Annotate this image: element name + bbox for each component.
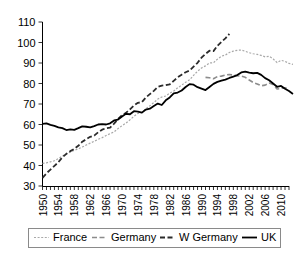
x-tick-label: 1954 [53,194,64,217]
x-tick-label: 2002 [244,194,255,217]
x-tick-label: 1958 [69,194,80,217]
legend-label-uk: UK [261,231,277,243]
x-tick-label: 1970 [117,194,128,217]
x-tick-label: 1950 [38,194,49,217]
series-line-france [43,50,293,163]
y-tick-label: 100 [17,37,35,49]
x-tick-label: 1990 [197,194,208,217]
x-tick-label: 2006 [260,194,271,217]
y-tick-label: 90 [23,57,35,69]
y-tick-label: 70 [23,98,35,110]
x-tick-label: 1998 [228,194,239,217]
chart-container: 30405060708090100110 1950195419581962196… [0,0,297,255]
legend: FranceGermanyW GermanyUK [29,229,281,248]
y-tick-label: 60 [23,119,35,131]
y-axis-ticks [39,22,43,186]
y-tick-label: 40 [23,160,35,172]
line-chart: 30405060708090100110 1950195419581962196… [0,0,297,255]
legend-label-france: France [53,231,87,243]
x-tick-label: 1974 [133,194,144,217]
series-line-uk [43,72,293,130]
y-tick-label: 50 [23,139,35,151]
y-tick-label: 80 [23,78,35,90]
series-lines [43,34,293,178]
x-tick-label: 1994 [212,194,223,217]
x-tick-label: 1982 [165,194,176,217]
x-tick-label: 1986 [181,194,192,217]
x-tick-label: 1966 [101,194,112,217]
legend-label-w-germany: W Germany [179,231,238,243]
x-tick-label: 1978 [149,194,160,217]
y-tick-label: 30 [23,180,35,192]
x-tick-label: 2010 [276,194,287,217]
y-axis-tick-labels: 30405060708090100110 [17,16,35,192]
x-tick-label: 1962 [85,194,96,217]
series-line-w-germany [43,34,230,178]
legend-label-germany: Germany [111,231,157,243]
y-tick-label: 110 [18,16,36,28]
x-axis-tick-labels: 1950195419581962196619701974197819821986… [38,194,288,217]
